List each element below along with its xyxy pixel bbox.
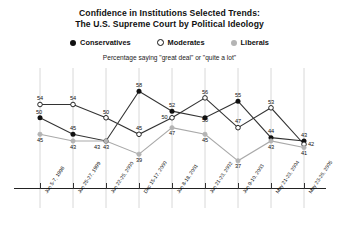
data-point-liberals-8 bbox=[302, 145, 306, 149]
legend-label-liberals: Liberals bbox=[241, 38, 269, 47]
data-label-conservatives-0: 50 bbox=[36, 109, 42, 115]
conservatives-marker-icon bbox=[70, 40, 76, 46]
data-label-moderates-6: 47 bbox=[235, 118, 241, 124]
data-label-liberals-0: 45 bbox=[37, 137, 43, 143]
x-axis-label-0: Jun 5-7, 1998 bbox=[43, 191, 48, 194]
data-label-conservatives-8: 43 bbox=[301, 132, 307, 138]
legend-item-moderates: Moderates bbox=[157, 38, 205, 47]
chart-container: Confidence in Institutions Selected Tren… bbox=[0, 0, 339, 246]
data-point-conservatives-3 bbox=[137, 89, 142, 94]
liberals-marker-icon bbox=[231, 40, 237, 46]
legend-item-conservatives: Conservatives bbox=[70, 38, 131, 47]
data-label-moderates-8: 42 bbox=[308, 141, 314, 147]
chart-subtitle: Percentage saying "great deal" or "quite… bbox=[0, 54, 339, 61]
x-axis-label-6: Jun 9-10, 2003 bbox=[241, 191, 246, 194]
data-point-liberals-7 bbox=[269, 139, 273, 143]
data-label-moderates-3: 45 bbox=[136, 125, 142, 131]
legend-label-conservatives: Conservatives bbox=[80, 38, 131, 47]
data-point-liberals-0 bbox=[38, 132, 42, 136]
data-point-liberals-3 bbox=[137, 152, 141, 156]
data-point-moderates-2 bbox=[104, 115, 109, 120]
data-label-conservatives-1: 45 bbox=[70, 125, 76, 131]
data-label-conservatives-4: 52 bbox=[169, 102, 175, 108]
x-axis-label-2: Jun 22-25, 2000 bbox=[109, 191, 114, 194]
x-axis-label-3: Dec 15-17, 2000 bbox=[142, 191, 147, 194]
x-axis-label-8: May 23-26, 2005 bbox=[307, 191, 312, 194]
data-point-moderates-4 bbox=[170, 115, 175, 120]
data-point-conservatives-0 bbox=[38, 115, 43, 120]
x-axis-label-4: Jun 8-18, 2001 bbox=[175, 191, 180, 194]
title-line-1: Confidence in Institutions Selected Tren… bbox=[0, 8, 339, 19]
data-point-conservatives-1 bbox=[71, 132, 76, 137]
data-label-moderates-1: 54 bbox=[70, 95, 76, 101]
data-point-moderates-6 bbox=[236, 125, 241, 130]
title-line-2: The U.S. Supreme Court by Political Ideo… bbox=[0, 19, 339, 30]
data-label-liberals-6: 37 bbox=[235, 163, 241, 169]
data-point-conservatives-6 bbox=[236, 99, 241, 104]
data-label-conservatives-7: 44 bbox=[268, 128, 274, 134]
data-label-liberals-5: 45 bbox=[202, 137, 208, 143]
chart-legend: Conservatives Moderates Liberals bbox=[0, 38, 339, 47]
data-point-moderates-7 bbox=[269, 106, 274, 111]
data-point-moderates-3 bbox=[137, 132, 142, 137]
data-point-moderates-1 bbox=[71, 102, 76, 107]
data-label-moderates-4: 50 bbox=[161, 114, 167, 120]
x-axis-labels: Jun 5-7, 1998Jun 25-27, 1999Jun 22-25, 2… bbox=[0, 189, 339, 246]
data-label-liberals-3: 39 bbox=[136, 157, 142, 163]
data-label-moderates-5: 56 bbox=[202, 89, 208, 95]
data-label-conservatives-2: 43 bbox=[103, 144, 109, 150]
data-label-liberals-7: 43 bbox=[268, 144, 274, 150]
data-label-moderates-7: 53 bbox=[268, 99, 274, 105]
chart-title: Confidence in Institutions Selected Tren… bbox=[0, 8, 339, 30]
x-axis-label-5: Jun 21-23, 2002 bbox=[208, 191, 213, 194]
legend-item-liberals: Liberals bbox=[231, 38, 269, 47]
data-label-liberals-4: 47 bbox=[169, 130, 175, 136]
data-point-liberals-1 bbox=[71, 139, 75, 143]
data-point-liberals-5 bbox=[203, 132, 207, 136]
data-point-moderates-5 bbox=[203, 96, 208, 101]
x-axis-label-7: May 21-23, 2004 bbox=[274, 191, 279, 194]
x-axis-label-1: Jun 25-27, 1999 bbox=[76, 191, 81, 194]
data-label-conservatives-3: 58 bbox=[136, 82, 142, 88]
data-label-conservatives-5: 50 bbox=[202, 117, 208, 123]
moderates-marker-icon bbox=[157, 39, 164, 46]
data-label-moderates-0: 54 bbox=[37, 95, 43, 101]
data-point-liberals-4 bbox=[170, 125, 174, 129]
data-label-conservatives-6: 55 bbox=[235, 92, 241, 98]
data-label-liberals-2: 43 bbox=[94, 144, 100, 150]
data-label-liberals-8: 41 bbox=[301, 150, 307, 156]
data-point-liberals-2 bbox=[104, 139, 108, 143]
data-point-conservatives-4 bbox=[170, 109, 175, 114]
data-label-liberals-1: 43 bbox=[70, 144, 76, 150]
data-point-moderates-0 bbox=[38, 102, 43, 107]
data-label-moderates-2: 50 bbox=[103, 109, 109, 115]
legend-label-moderates: Moderates bbox=[168, 38, 205, 47]
data-point-liberals-6 bbox=[236, 159, 240, 163]
